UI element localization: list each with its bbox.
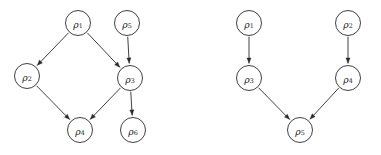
- edge-rho1-rho3-arrowhead-icon: [247, 58, 251, 63]
- edge-rho5-rho3: [127, 37, 131, 63]
- edge-rho2-rho4: [346, 37, 350, 63]
- edge-rho3-rho6: [130, 92, 134, 115]
- edge-rho2-rho4-line: [37, 86, 70, 119]
- edge-rho2-rho4-arrowhead-icon: [346, 58, 350, 63]
- edges-layer: [37, 33, 350, 119]
- edge-rho5-rho3-arrowhead-icon: [127, 58, 131, 63]
- edge-rho1-rho3-line: [88, 33, 120, 67]
- figure-container: ρ1ρ5ρ2ρ3ρ4ρ6ρ1ρ2ρ3ρ4ρ5: [0, 0, 381, 155]
- node-right-graph-ρ2[interactable]: ρ2: [336, 11, 361, 36]
- node-left-graph-ρ2[interactable]: ρ2: [15, 64, 40, 89]
- node-left-graph-ρ3[interactable]: ρ3: [118, 66, 143, 91]
- edge-rho1-rho3: [88, 33, 120, 67]
- edge-rho1-rho3: [247, 37, 251, 63]
- node-right-graph-ρ1[interactable]: ρ1: [237, 11, 262, 36]
- left-dag-nodes: ρ1ρ5ρ2ρ3ρ4ρ6: [15, 11, 146, 143]
- edge-rho1-rho2-line: [37, 33, 68, 65]
- node-right-graph-ρ4[interactable]: ρ4: [336, 66, 361, 91]
- node-right-graph-ρ3[interactable]: ρ3: [237, 66, 262, 91]
- right-dag-edges: [247, 37, 350, 119]
- edge-rho3-rho6-arrowhead-icon: [130, 110, 134, 115]
- node-left-graph-ρ6[interactable]: ρ6: [121, 118, 146, 143]
- right-dag-nodes: ρ1ρ2ρ3ρ4ρ5: [237, 11, 361, 143]
- node-left-graph-ρ4[interactable]: ρ4: [68, 118, 93, 143]
- edge-rho3-rho5-line: [259, 88, 290, 119]
- nodes-layer: ρ1ρ5ρ2ρ3ρ4ρ6ρ1ρ2ρ3ρ4ρ5: [15, 11, 361, 143]
- edge-rho3-rho5: [259, 88, 290, 119]
- edge-rho3-rho4-line: [90, 88, 120, 119]
- edge-rho4-rho5: [310, 88, 338, 119]
- node-left-graph-ρ5[interactable]: ρ5: [115, 11, 140, 36]
- edge-rho1-rho2: [37, 33, 68, 65]
- node-right-graph-ρ5[interactable]: ρ5: [288, 118, 313, 143]
- dag-figure-canvas: ρ1ρ5ρ2ρ3ρ4ρ6ρ1ρ2ρ3ρ4ρ5: [0, 0, 381, 155]
- edge-rho2-rho4: [37, 86, 70, 119]
- node-left-graph-ρ1[interactable]: ρ1: [66, 11, 91, 36]
- edge-rho3-rho4: [90, 88, 120, 119]
- edge-rho4-rho5-line: [310, 88, 338, 119]
